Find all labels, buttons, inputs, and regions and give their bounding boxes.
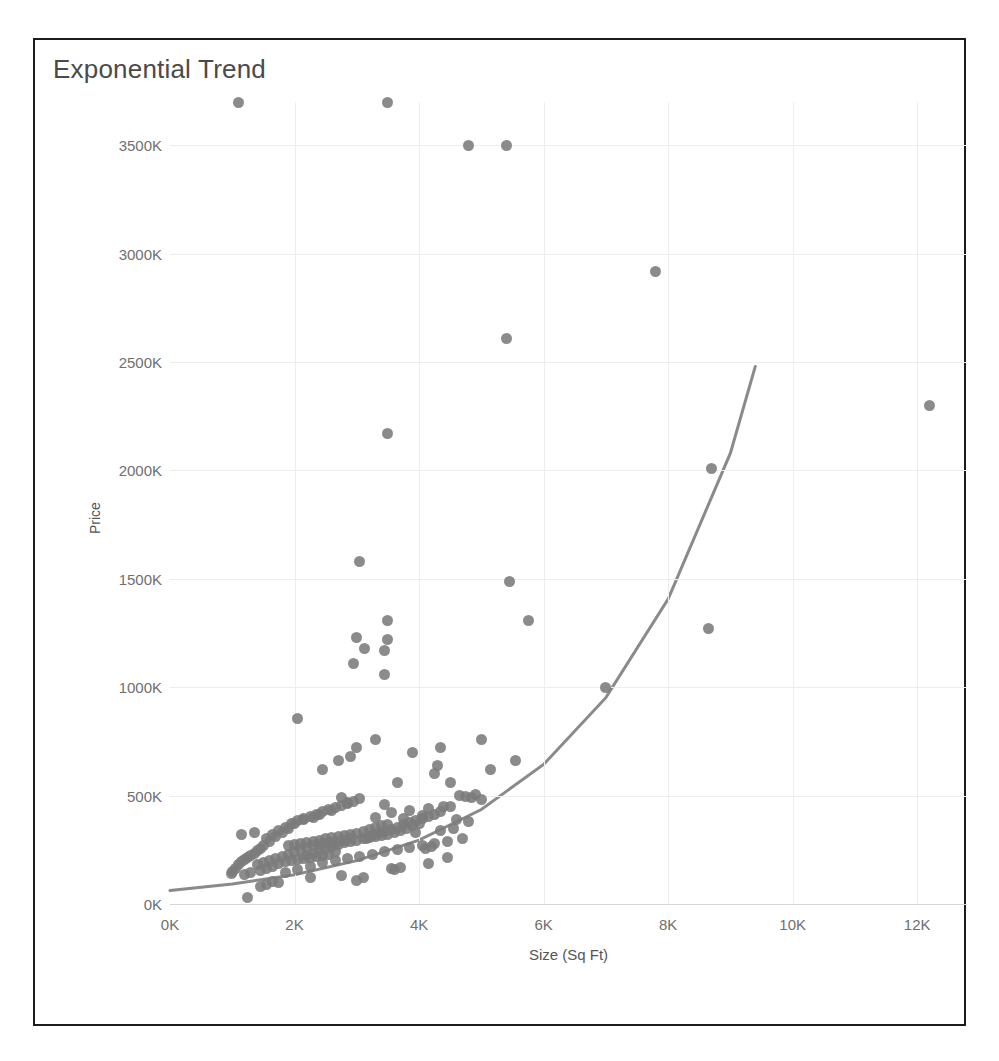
scatter-point[interactable] [226, 868, 237, 879]
scatter-point[interactable] [501, 140, 512, 151]
y-axis-title: Price [87, 502, 103, 534]
scatter-point[interactable] [392, 777, 403, 788]
x-gridline [668, 102, 669, 904]
scatter-point[interactable] [504, 576, 515, 587]
scatter-point[interactable] [501, 333, 512, 344]
scatter-point[interactable] [476, 734, 487, 745]
y-tick-label: 2500K [119, 354, 162, 371]
scatter-point[interactable] [448, 823, 459, 834]
y-gridline [170, 362, 967, 363]
scatter-point[interactable] [255, 881, 266, 892]
plot-area: 0K500K1000K1500K2000K2500K3000K3500K0K2K… [170, 102, 967, 904]
x-tick-label: 10K [779, 916, 806, 933]
scatter-point[interactable] [379, 669, 390, 680]
scatter-point[interactable] [292, 864, 303, 875]
x-gridline [793, 102, 794, 904]
scatter-point[interactable] [650, 266, 661, 277]
scatter-point[interactable] [442, 852, 453, 863]
y-gridline [170, 145, 967, 146]
scatter-point[interactable] [267, 876, 278, 887]
scatter-point[interactable] [342, 797, 353, 808]
y-gridline [170, 579, 967, 580]
y-tick-label: 2000K [119, 462, 162, 479]
scatter-point[interactable] [305, 861, 316, 872]
scatter-point[interactable] [442, 836, 453, 847]
x-tick-label: 12K [904, 916, 931, 933]
scatter-point[interactable] [382, 615, 393, 626]
scatter-point[interactable] [445, 777, 456, 788]
y-gridline [170, 796, 967, 797]
scatter-point[interactable] [348, 658, 359, 669]
x-gridline [295, 102, 296, 904]
scatter-point[interactable] [382, 97, 393, 108]
scatter-point[interactable] [417, 840, 428, 851]
scatter-point[interactable] [392, 844, 403, 855]
y-gridline [170, 904, 967, 905]
y-tick-label: 500K [127, 787, 162, 804]
scatter-point[interactable] [342, 853, 353, 864]
scatter-point[interactable] [336, 870, 347, 881]
chart-title: Exponential Trend [53, 54, 266, 85]
trend-line [170, 102, 967, 904]
scatter-point[interactable] [367, 849, 378, 860]
scatter-point[interactable] [280, 867, 291, 878]
y-tick-label: 3000K [119, 245, 162, 262]
y-gridline [170, 254, 967, 255]
y-tick-label: 3500K [119, 137, 162, 154]
scatter-point[interactable] [523, 615, 534, 626]
y-tick-label: 1000K [119, 679, 162, 696]
scatter-point[interactable] [233, 97, 244, 108]
x-axis-title: Size (Sq Ft) [170, 946, 967, 963]
x-gridline [419, 102, 420, 904]
y-tick-label: 1500K [119, 570, 162, 587]
x-gridline [917, 102, 918, 904]
scatter-point[interactable] [358, 872, 369, 883]
x-tick-label: 4K [410, 916, 428, 933]
x-tick-label: 0K [161, 916, 179, 933]
scatter-point[interactable] [249, 827, 260, 838]
chart-container: Exponential Trend Price Size (Sq Ft) 0K5… [33, 38, 966, 1026]
y-gridline [170, 470, 967, 471]
x-tick-label: 8K [659, 916, 677, 933]
x-tick-label: 6K [534, 916, 552, 933]
scatter-point[interactable] [429, 838, 440, 849]
scatter-point[interactable] [330, 855, 341, 866]
scatter-point[interactable] [706, 463, 717, 474]
scatter-point[interactable] [359, 643, 370, 654]
y-gridline [170, 687, 967, 688]
scatter-point[interactable] [370, 734, 381, 745]
scatter-point[interactable] [386, 863, 397, 874]
x-gridline [544, 102, 545, 904]
x-tick-label: 2K [285, 916, 303, 933]
y-tick-label: 0K [144, 896, 162, 913]
